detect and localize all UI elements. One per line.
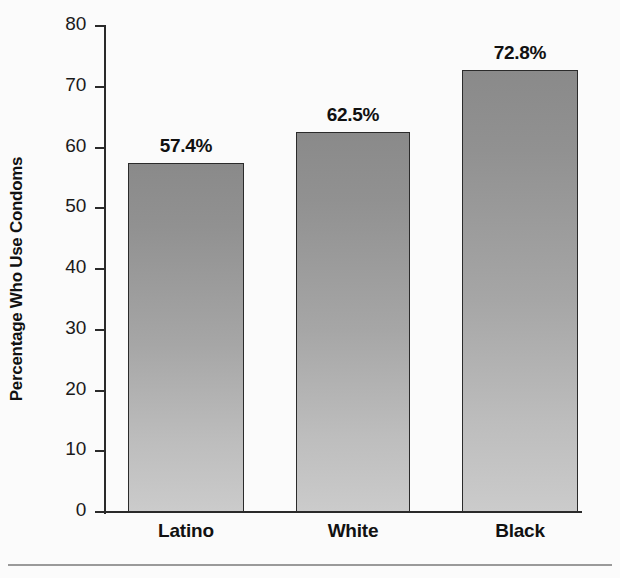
bar-black[interactable] bbox=[462, 70, 578, 512]
y-axis-tick-label: 10 bbox=[22, 438, 86, 460]
y-axis-tick bbox=[95, 268, 104, 270]
y-axis-tick bbox=[95, 390, 104, 392]
y-axis-tick bbox=[95, 86, 104, 88]
x-axis-category-label-black: Black bbox=[462, 520, 578, 542]
y-axis-tick-label: 80 bbox=[22, 13, 86, 35]
bar-value-label-white: 62.5% bbox=[296, 104, 410, 126]
y-axis-tick bbox=[95, 207, 104, 209]
y-axis-tick bbox=[95, 329, 104, 331]
y-axis-tick-label: 0 bbox=[22, 499, 86, 521]
bar-latino[interactable] bbox=[128, 163, 244, 512]
y-axis-tick bbox=[95, 147, 104, 149]
x-axis-category-label-latino: Latino bbox=[128, 520, 244, 542]
y-axis-tick-label: 30 bbox=[22, 317, 86, 339]
x-axis-category-label-white: White bbox=[296, 520, 410, 542]
y-axis-tick bbox=[95, 450, 104, 452]
y-axis-tick-label: 40 bbox=[22, 256, 86, 278]
y-axis-tick-label: 50 bbox=[22, 195, 86, 217]
bar-chart-figure: Percentage Who Use Condoms 0102030405060… bbox=[0, 0, 620, 578]
bar-value-label-latino: 57.4% bbox=[128, 135, 244, 157]
y-axis-tick-label: 60 bbox=[22, 135, 86, 157]
y-axis-tick bbox=[95, 511, 104, 513]
y-axis-tick-label: 70 bbox=[22, 74, 86, 96]
bar-value-label-black: 72.8% bbox=[462, 42, 578, 64]
y-axis-tick bbox=[95, 25, 104, 27]
bottom-divider bbox=[8, 564, 612, 566]
y-axis-tick-label: 20 bbox=[22, 378, 86, 400]
bar-white[interactable] bbox=[296, 132, 410, 512]
y-axis-line bbox=[104, 25, 106, 514]
